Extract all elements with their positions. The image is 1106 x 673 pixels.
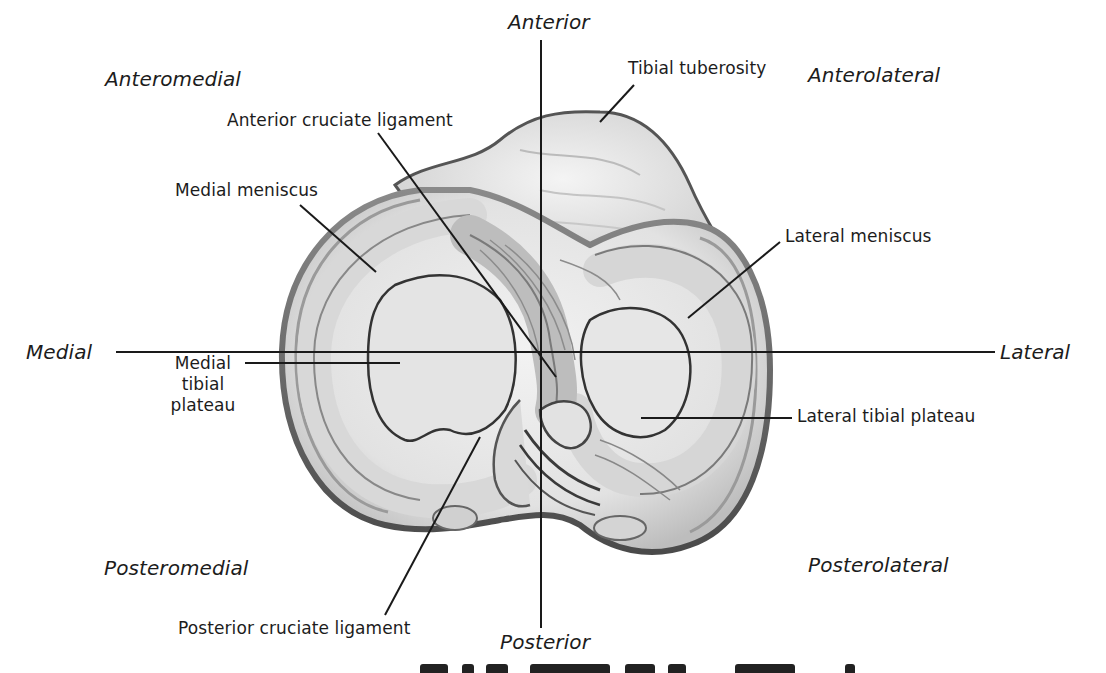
label-posterior-cruciate-ligament: Posterior cruciate ligament: [178, 618, 410, 638]
label-anterior: Anterior: [508, 10, 590, 34]
label-medial-tibial-plateau-line3: plateau: [158, 395, 248, 416]
label-medial-tibial-plateau-line2: tibial: [158, 374, 248, 395]
medial-tibial-plateau-shape: [368, 275, 516, 441]
label-anterolateral: Anterolateral: [808, 63, 940, 87]
label-medial-tibial-plateau: Medial tibial plateau: [158, 353, 248, 416]
label-posteromedial: Posteromedial: [104, 556, 248, 580]
label-anterior-cruciate-ligament: Anterior cruciate ligament: [227, 110, 453, 130]
label-medial-meniscus: Medial meniscus: [175, 180, 318, 200]
label-lateral: Lateral: [1000, 340, 1070, 364]
label-posterolateral: Posterolateral: [808, 553, 949, 577]
label-posterior: Posterior: [500, 630, 590, 654]
label-medial-tibial-plateau-line1: Medial: [158, 353, 248, 374]
truncated-caption: [0, 660, 1106, 673]
label-medial: Medial: [26, 340, 92, 364]
label-lateral-meniscus: Lateral meniscus: [785, 226, 932, 246]
label-tibial-tuberosity: Tibial tuberosity: [628, 58, 766, 78]
label-lateral-tibial-plateau: Lateral tibial plateau: [797, 406, 975, 426]
label-anteromedial: Anteromedial: [105, 67, 241, 91]
